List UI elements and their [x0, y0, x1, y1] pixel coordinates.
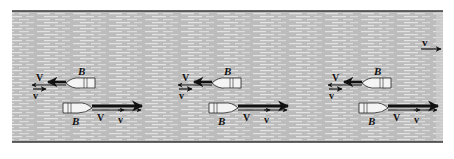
- current-label: v: [422, 36, 428, 48]
- current-label: v: [414, 114, 419, 125]
- current-label: v: [264, 114, 269, 125]
- boat-velocity-label: V: [97, 112, 105, 123]
- boat-velocity-label: V: [332, 72, 340, 83]
- current-label: v: [118, 114, 123, 125]
- boat-upstream-icon: [362, 78, 391, 88]
- boat-velocity-label: V: [393, 112, 401, 123]
- river-boat-diagram: v B V v B V v: [0, 0, 454, 159]
- boat-upstream-icon: [66, 78, 95, 88]
- boat-label: B: [77, 65, 85, 77]
- boat-label: B: [217, 115, 225, 127]
- current-label: v: [329, 90, 334, 101]
- boat-label: B: [373, 65, 381, 77]
- boat-velocity-label: V: [36, 72, 44, 83]
- current-label: v: [179, 90, 184, 101]
- boat-label: B: [223, 65, 231, 77]
- boat-label: B: [71, 115, 79, 127]
- boat-velocity-label: V: [243, 112, 251, 123]
- boat-label: B: [367, 115, 375, 127]
- boat-upstream-icon: [212, 78, 241, 88]
- current-label: v: [33, 90, 38, 101]
- boat-velocity-label: V: [182, 72, 190, 83]
- river-right-edge: [436, 11, 443, 142]
